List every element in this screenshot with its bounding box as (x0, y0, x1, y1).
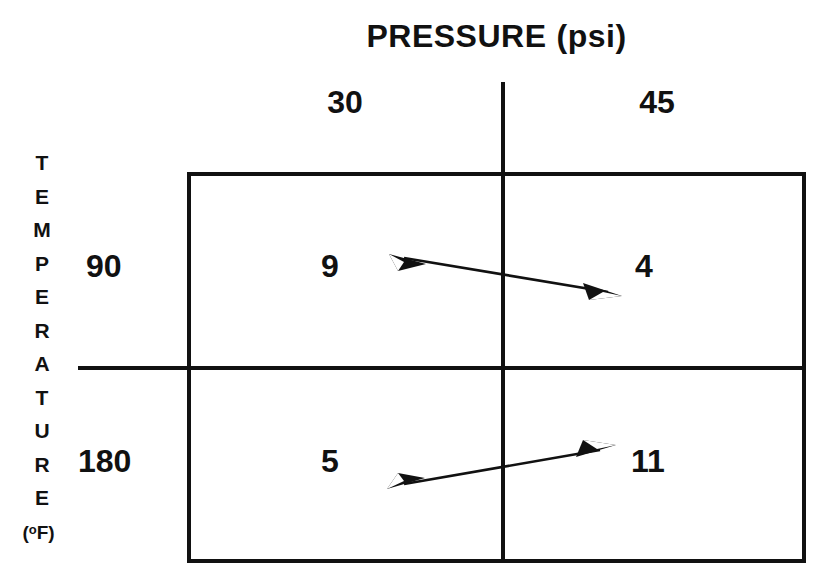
row-axis-letter-3: P (22, 247, 62, 281)
row-axis-title: T E M P E R A T U R E (oF) (22, 146, 62, 548)
row-axis-unit-close: ) (48, 522, 54, 543)
row-axis-letter-5: R (22, 314, 62, 348)
interaction-matrix-figure: PRESSURE(psi) 30 45 T E M P E R A T U R … (0, 0, 822, 585)
row-axis-letter-4: E (22, 280, 62, 314)
column-axis-name: PRESSURE (366, 18, 546, 54)
row-axis-letter-7: T (22, 381, 62, 415)
cell-temp90-pressure45: 4 (604, 248, 684, 285)
column-axis-unit: (psi) (557, 18, 627, 54)
row-axis-letter-1: E (22, 180, 62, 214)
row-axis-unit: (oF) (15, 515, 62, 548)
row-axis-letter-10: E (22, 481, 62, 515)
cell-temp180-pressure45: 11 (608, 443, 688, 480)
row-header-180: 180 (78, 443, 131, 480)
row-header-90: 90 (86, 248, 122, 285)
vertical-divider (501, 82, 505, 563)
column-header-45: 45 (597, 84, 717, 121)
cell-temp180-pressure30: 5 (290, 443, 370, 480)
row-axis-letter-2: M (22, 213, 62, 247)
degree-icon: o (29, 522, 37, 537)
column-axis-title: PRESSURE(psi) (187, 18, 806, 55)
row-axis-unit-symbol: F (37, 522, 49, 543)
row-axis-letter-6: A (22, 347, 62, 381)
column-header-30: 30 (285, 84, 405, 121)
horizontal-divider (78, 366, 806, 370)
cell-temp90-pressure30: 9 (290, 248, 370, 285)
row-axis-letter-8: U (22, 414, 62, 448)
row-axis-letter-9: R (22, 448, 62, 482)
row-axis-letter-0: T (22, 146, 62, 180)
